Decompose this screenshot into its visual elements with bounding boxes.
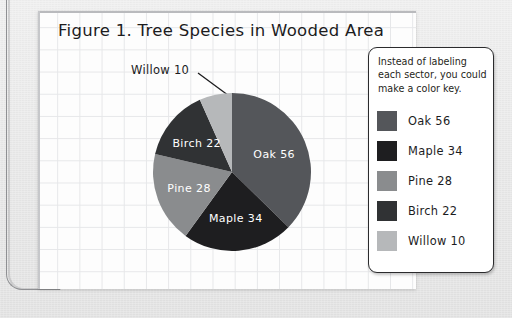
legend-row: Birch 22	[377, 196, 487, 226]
legend-label: Birch 22	[408, 204, 457, 218]
pie-label-pine: Pine 28	[167, 182, 210, 195]
pie-chart: Oak 56Maple 34Pine 28Birch 22	[152, 92, 312, 252]
grid-card-left-rule	[38, 11, 40, 289]
legend-label: Willow 10	[408, 234, 466, 248]
pie-label-maple: Maple 34	[209, 212, 263, 225]
legend-note: Instead of labeling each sector, you cou…	[378, 55, 490, 95]
pie-chart-svg: Oak 56Maple 34Pine 28Birch 22	[152, 92, 312, 252]
legend-label: Maple 34	[408, 144, 463, 158]
legend-row: Maple 34	[377, 136, 487, 166]
pie-label-oak: Oak 56	[253, 148, 295, 161]
legend-swatch	[377, 201, 397, 221]
willow-callout-label: Willow 10	[131, 63, 189, 77]
legend-label: Pine 28	[408, 174, 452, 188]
pie-label-birch: Birch 22	[172, 137, 221, 150]
legend-panel: Instead of labeling each sector, you cou…	[368, 47, 494, 273]
pie-slices	[153, 93, 311, 251]
legend-label: Oak 56	[408, 114, 450, 128]
legend-row: Pine 28	[377, 166, 487, 196]
legend-row: Willow 10	[377, 226, 487, 256]
legend-items: Oak 56Maple 34Pine 28Birch 22Willow 10	[377, 106, 487, 256]
grid-card-top-rule	[38, 11, 416, 13]
legend-row: Oak 56	[377, 106, 487, 136]
legend-swatch	[377, 171, 397, 191]
figure-title: Figure 1. Tree Species in Wooded Area	[58, 21, 384, 40]
legend-swatch	[377, 111, 397, 131]
legend-swatch	[377, 231, 397, 251]
legend-swatch	[377, 141, 397, 161]
